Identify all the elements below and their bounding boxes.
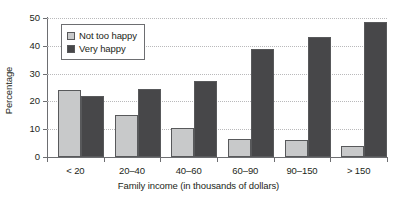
bar xyxy=(81,96,104,157)
bar-group xyxy=(341,18,387,157)
x-tick-mark xyxy=(387,157,388,162)
bar xyxy=(228,139,251,157)
legend-label-very-happy: Very happy xyxy=(79,43,126,54)
bar xyxy=(138,89,161,157)
bar xyxy=(285,140,308,157)
y-tick-label: 50 xyxy=(18,13,40,23)
y-tick-label: 10 xyxy=(18,124,40,134)
legend-label-not-too-happy: Not too happy xyxy=(79,30,137,41)
x-tick-mark xyxy=(330,157,331,162)
bar xyxy=(308,37,331,157)
y-axis-title: Percentage xyxy=(2,13,16,168)
x-tick-mark xyxy=(47,157,48,162)
x-tick-mark xyxy=(274,157,275,162)
bar xyxy=(194,81,217,157)
bar-chart-figure: Percentage 01020304050 < 2020–4040–6060–… xyxy=(0,0,397,202)
y-tick-label: 0 xyxy=(18,152,40,162)
bar xyxy=(171,128,194,157)
bar xyxy=(115,115,138,157)
y-tick-label: 40 xyxy=(18,41,40,51)
bar xyxy=(251,49,274,157)
x-tick-mark xyxy=(217,157,218,162)
legend-item-not-too-happy: Not too happy xyxy=(67,29,137,42)
bar-group xyxy=(228,18,274,157)
legend-swatch-icon-not-too-happy xyxy=(67,32,75,40)
bar-group xyxy=(285,18,331,157)
x-axis-title: Family income (in thousands of dollars) xyxy=(0,180,397,192)
legend-swatch-icon-very-happy xyxy=(67,45,75,53)
x-tick-mark xyxy=(160,157,161,162)
x-tick-mark xyxy=(104,157,105,162)
bar xyxy=(58,90,81,157)
bar xyxy=(364,22,387,157)
chart-legend: Not too happy Very happy xyxy=(61,24,145,60)
bar xyxy=(341,146,364,157)
bar-group xyxy=(171,18,217,157)
legend-item-very-happy: Very happy xyxy=(67,42,137,55)
x-tick-label: > 150 xyxy=(324,165,394,176)
y-tick-label: 20 xyxy=(18,96,40,106)
y-tick-label: 30 xyxy=(18,69,40,79)
